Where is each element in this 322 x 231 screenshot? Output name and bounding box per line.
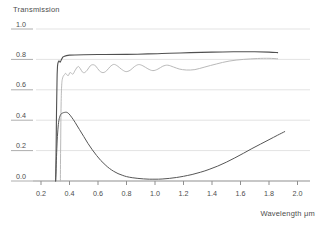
x-tick-label: 0.2 xyxy=(36,189,46,198)
x-tick-label: 0.4 xyxy=(65,189,75,198)
y-tick-label: 0.6 xyxy=(16,80,26,89)
y-tick-label: 0.8 xyxy=(16,50,26,59)
plot-area: 0.00.20.40.60.81.00.20.40.60.81.01.21.41… xyxy=(0,0,322,231)
y-tick-label: 1.0 xyxy=(16,20,26,29)
transmission-chart: Transmission 0.00.20.40.60.81.00.20.40.6… xyxy=(0,0,322,231)
x-tick-label: 1.0 xyxy=(150,189,160,198)
x-tick-label: 0.8 xyxy=(122,189,132,198)
y-tick-label: 0.0 xyxy=(16,172,26,181)
series-fringed-transmission xyxy=(60,58,277,181)
x-tick-label: 1.2 xyxy=(179,189,189,198)
x-tick-label: 0.6 xyxy=(93,189,103,198)
x-tick-label: 1.8 xyxy=(264,189,274,198)
series-bell-absorption-curve xyxy=(56,112,285,181)
y-tick-label: 0.2 xyxy=(16,141,26,150)
x-axis-title: Wavelength μm xyxy=(260,209,315,218)
series-smooth-high-transmission xyxy=(56,52,278,181)
x-tick-label: 1.4 xyxy=(207,189,217,198)
y-tick-label: 0.4 xyxy=(16,111,26,120)
x-tick-label: 2.0 xyxy=(293,189,303,198)
x-tick-label: 1.6 xyxy=(236,189,246,198)
